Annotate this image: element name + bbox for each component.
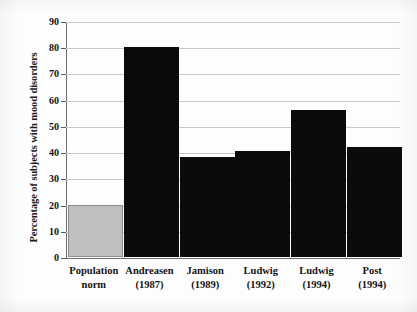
gridline [66,22,400,23]
gridline [66,127,400,128]
y-tick-mark [61,179,66,180]
x-axis-label-name: Ludwig [244,265,278,276]
x-axis-label: Andreasen(1987) [118,264,182,292]
bar [180,157,235,257]
x-axis-label-year: (1994) [285,278,349,292]
y-tick-label: 80 [33,43,59,53]
y-tick-label: 50 [33,122,59,132]
y-tick-label: 90 [33,17,59,27]
x-axis-label-name: Ludwig [299,265,333,276]
x-axis-label-year: norm [62,278,126,292]
gridline [66,74,400,75]
y-tick-mark [61,22,66,23]
y-tick-mark [61,258,66,259]
bar [124,47,179,257]
x-axis-label-name: Andreasen [125,265,173,276]
x-axis-label-name: Jamison [186,265,223,276]
y-tick-label: 60 [33,96,59,106]
y-tick-label: 40 [33,148,59,158]
bar-chart-figure: Percentage of subjects with mood disorde… [0,0,417,312]
gridline [66,101,400,102]
x-axis-label: Post(1994) [340,264,404,292]
y-tick-label: 0 [33,253,59,263]
y-tick-label: 30 [33,174,59,184]
x-axis-label: Ludwig(1994) [285,264,349,292]
x-axis-label-year: (1992) [229,278,293,292]
y-tick-mark [61,153,66,154]
x-axis-label-year: (1994) [340,278,404,292]
y-tick-mark [61,232,66,233]
x-axis-label-name: Post [363,265,382,276]
x-axis-label: Ludwig(1992) [229,264,293,292]
bar [68,205,123,257]
x-axis-label-year: (1987) [118,278,182,292]
y-tick-mark [61,206,66,207]
bar [235,151,290,257]
y-tick-label: 20 [33,201,59,211]
bar [291,110,346,257]
x-axis-label: Populationnorm [62,264,126,292]
bar [347,147,402,257]
y-tick-mark [61,74,66,75]
y-axis-line [66,22,67,259]
x-axis-label-name: Population [69,265,118,276]
y-tick-mark [61,48,66,49]
y-tick-label: 10 [33,227,59,237]
x-axis-label: Jamison(1989) [173,264,237,292]
x-axis-line [66,258,400,259]
y-tick-mark [61,101,66,102]
plot-area: 9080706050403020100 PopulationnormAndrea… [66,22,400,258]
x-axis-label-year: (1989) [173,278,237,292]
y-tick-label: 70 [33,69,59,79]
gridline [66,48,400,49]
y-tick-mark [61,127,66,128]
